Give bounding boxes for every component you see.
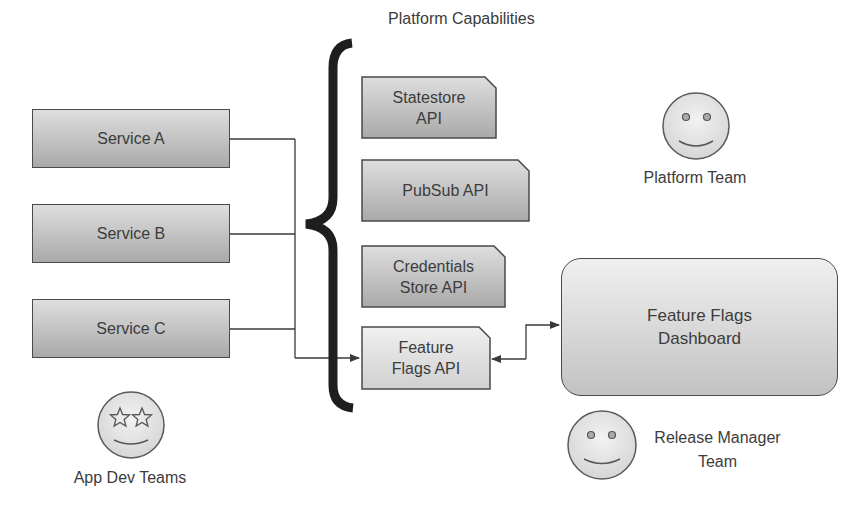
credentials-api-label-line1: Credentials	[393, 256, 474, 277]
credentials-api-label-line2: Store API	[393, 277, 474, 298]
release-manager-label-line2: Team	[640, 450, 795, 474]
feature-flags-dashboard-box[interactable]: Feature Flags Dashboard	[561, 258, 838, 396]
service-a-label: Service A	[97, 130, 165, 148]
api-dashboard-connector	[492, 325, 559, 359]
service-c-label: Service C	[96, 320, 165, 338]
statestore-api-label-line2: API	[393, 108, 466, 129]
app-dev-teams-label: App Dev Teams	[55, 469, 205, 487]
dashboard-label-line1: Feature Flags	[647, 304, 752, 327]
release-manager-label-line1: Release Manager	[640, 426, 795, 450]
service-connectors	[230, 139, 359, 358]
dashboard-label-line2: Dashboard	[647, 327, 752, 350]
pubsub-api-label: PubSub API	[402, 180, 488, 201]
platform-capabilities-title: Platform Capabilities	[388, 10, 535, 28]
service-a-box[interactable]: Service A	[32, 109, 230, 168]
feature-flags-api-label-line2: Flags API	[392, 358, 460, 379]
feature-flags-api-box[interactable]: Feature Flags API	[361, 326, 491, 390]
release-manager-smiley-icon	[568, 411, 636, 479]
statestore-api-box[interactable]: Statestore API	[361, 76, 497, 139]
credentials-store-api-box[interactable]: Credentials Store API	[361, 245, 506, 308]
statestore-api-label-line1: Statestore	[393, 87, 466, 108]
feature-flags-api-label-line1: Feature	[392, 337, 460, 358]
service-c-box[interactable]: Service C	[32, 299, 230, 358]
platform-team-label: Platform Team	[620, 169, 770, 187]
service-b-box[interactable]: Service B	[32, 204, 230, 263]
release-manager-label: Release Manager Team	[640, 426, 795, 474]
service-b-label: Service B	[97, 225, 165, 243]
curly-brace	[306, 43, 353, 408]
app-dev-star-eyes-icon	[98, 392, 164, 458]
platform-team-smiley-icon	[663, 93, 729, 159]
pubsub-api-box[interactable]: PubSub API	[361, 159, 530, 222]
